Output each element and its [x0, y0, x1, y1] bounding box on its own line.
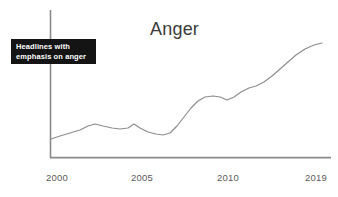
callout-line-2: emphasis on anger [16, 52, 92, 62]
anger-line-chart: Anger 2000 2005 2010 2019 Headlines with… [0, 0, 338, 197]
x-tick-label-2019: 2019 [305, 172, 327, 183]
callout-line-1: Headlines with [16, 42, 92, 52]
chart-title: Anger [150, 18, 240, 40]
x-tick-label-2010: 2010 [217, 172, 239, 183]
x-tick-label-2005: 2005 [131, 172, 153, 183]
series-callout-label: Headlines with emphasis on anger [11, 39, 96, 64]
x-tick-label-2000: 2000 [46, 172, 68, 183]
